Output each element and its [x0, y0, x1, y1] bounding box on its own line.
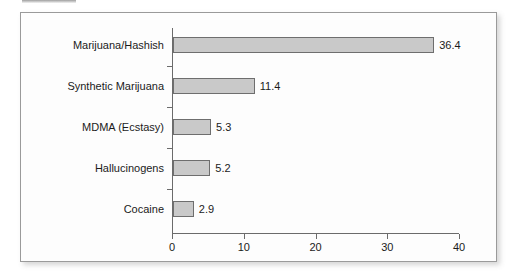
y-axis-tick-2: [167, 107, 172, 108]
bar-value-label-2: 5.3: [216, 119, 231, 135]
bar-3: [173, 160, 210, 176]
x-axis-tick-label-30: 30: [381, 241, 393, 253]
bar-2: [173, 119, 211, 135]
x-axis-tick-20: [316, 234, 317, 239]
bar-value-label-1: 11.4: [260, 78, 281, 94]
bar-4: [173, 201, 194, 217]
x-axis-tick-label-20: 20: [309, 241, 321, 253]
category-label-2: MDMA (Ecstasy): [82, 119, 164, 135]
x-axis-tick-label-10: 10: [238, 241, 250, 253]
y-axis-tick-3: [167, 148, 172, 149]
category-label-1: Synthetic Marijuana: [67, 78, 164, 94]
bar-0: [173, 37, 434, 53]
y-axis-tick-1: [167, 66, 172, 67]
x-axis-tick-10: [244, 234, 245, 239]
x-axis-tick-0: [172, 234, 173, 239]
plot-area: 010203040Marijuana/Hashish36.4Synthetic …: [21, 13, 496, 261]
x-axis-tick-30: [387, 234, 388, 239]
bar-value-label-0: 36.4: [439, 37, 460, 53]
category-label-0: Marijuana/Hashish: [73, 37, 164, 53]
category-label-3: Hallucinogens: [95, 160, 164, 176]
figure-panel: 010203040Marijuana/Hashish36.4Synthetic …: [20, 12, 497, 262]
category-label-4: Cocaine: [124, 201, 164, 217]
chart-screenshot: 010203040Marijuana/Hashish36.4Synthetic …: [0, 0, 525, 279]
bar-value-label-4: 2.9: [199, 201, 214, 217]
x-axis-tick-label-0: 0: [169, 241, 175, 253]
top-edge-artifact: [22, 0, 76, 3]
x-axis-tick-label-40: 40: [453, 241, 465, 253]
bar-value-label-3: 5.2: [215, 160, 230, 176]
y-axis-tick-4: [167, 189, 172, 190]
x-axis-tick-40: [459, 234, 460, 239]
bar-1: [173, 78, 255, 94]
